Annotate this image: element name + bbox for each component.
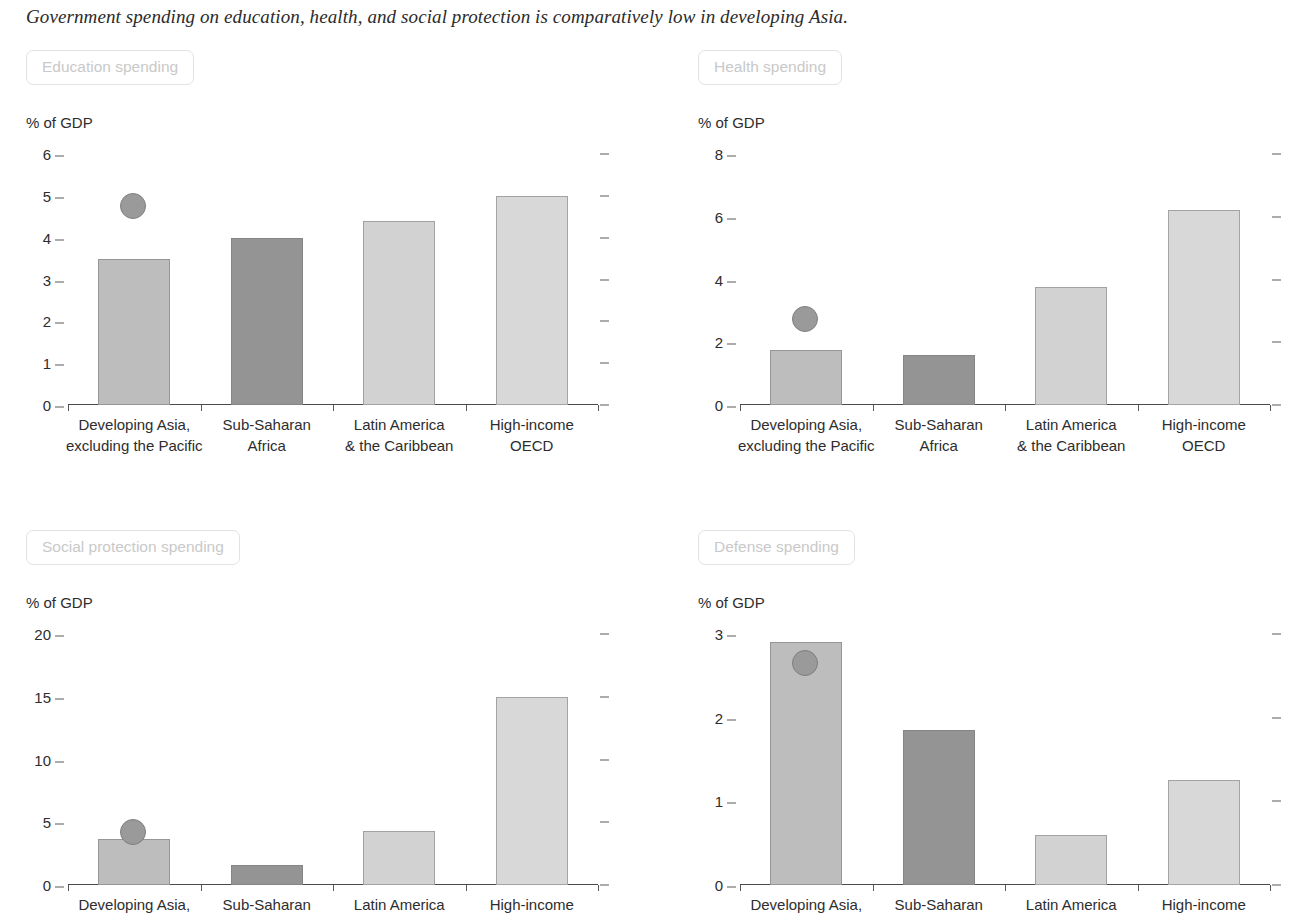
- y-axis-tick-label: 6: [26, 146, 64, 163]
- y-axis-tick-right: [600, 363, 609, 364]
- y-axis-tick-right: [1272, 279, 1281, 280]
- x-axis-label-line1: Latin America: [1017, 414, 1125, 435]
- x-axis-label-latin-america: Latin America: [1026, 894, 1117, 915]
- x-axis-tick: [740, 405, 741, 411]
- y-axis-tick-label: 5: [26, 187, 64, 204]
- y-axis-tick-label: 2: [698, 709, 736, 726]
- y-axis-tick-right: [1272, 154, 1281, 155]
- x-axis-label-line2: OECD: [1162, 435, 1246, 456]
- x-axis-tick: [1138, 885, 1139, 891]
- chart-panel-defense: Defense spending% of GDP0123Developing A…: [690, 524, 1302, 924]
- bar-high-income-oecd: [1168, 210, 1240, 405]
- bar-latin-america: [363, 221, 435, 405]
- y-axis-tick-label: 5: [26, 814, 64, 831]
- x-axis-label-sub-saharan-africa: Sub-SaharanAfrica: [895, 414, 983, 456]
- y-axis-tick-label: 1: [26, 355, 64, 372]
- y-axis-tick-label: 2: [698, 334, 736, 351]
- y-axis-tick-label: 4: [26, 229, 64, 246]
- x-axis-tick: [333, 405, 334, 411]
- bar-sub-saharan-africa: [903, 355, 975, 405]
- y-axis-unit-label: % of GDP: [26, 114, 93, 131]
- x-axis-label-line1: Developing Asia,: [750, 894, 862, 915]
- x-axis-tick: [68, 885, 69, 891]
- y-axis-tick-right: [600, 759, 609, 760]
- x-axis-tick: [333, 885, 334, 891]
- bar-sub-saharan-africa: [903, 730, 975, 885]
- x-axis-label-line1: Sub-Saharan: [895, 414, 983, 435]
- x-axis-label-line2: excluding the Pacific: [66, 435, 203, 456]
- y-axis-tick-label: 1: [698, 793, 736, 810]
- y-axis-unit-label: % of GDP: [698, 594, 765, 611]
- x-axis-label-sub-saharan-africa: Sub-Saharan: [223, 894, 311, 915]
- x-axis-tick: [466, 885, 467, 891]
- x-axis-label-line1: Developing Asia,: [738, 414, 875, 435]
- y-axis-tick-right: [1272, 634, 1281, 635]
- x-axis-label-line1: High-income: [1162, 414, 1246, 435]
- x-axis-label-line1: High-income: [490, 894, 574, 915]
- x-axis-tick: [201, 405, 202, 411]
- y-axis-tick-label: 20: [26, 626, 64, 643]
- bar-developing-asia: [98, 839, 170, 885]
- x-axis-tick: [598, 405, 599, 411]
- x-axis-label-sub-saharan-africa: Sub-Saharan: [895, 894, 983, 915]
- x-axis-label-high-income-oecd: High-incomeOECD: [1162, 414, 1246, 456]
- bar-latin-america: [363, 831, 435, 885]
- y-axis-tick-right: [600, 154, 609, 155]
- x-axis-label-line1: Developing Asia,: [66, 414, 203, 435]
- panel-pill-label[interactable]: Defense spending: [698, 530, 855, 565]
- x-axis-category-labels: Developing Asia,excluding the PacificSub…: [698, 414, 1274, 474]
- panel-pill-label[interactable]: Education spending: [26, 50, 194, 85]
- x-axis-label-line2: & the Caribbean: [1017, 435, 1125, 456]
- y-axis-tick-right: [1272, 216, 1281, 217]
- bar-high-income-oecd: [496, 196, 568, 405]
- bar-developing-asia: [98, 259, 170, 405]
- x-axis-tick: [873, 405, 874, 411]
- y-axis-tick-label: 3: [26, 271, 64, 288]
- x-axis-category-labels: Developing Asia,Sub-SaharanLatin America…: [26, 894, 602, 924]
- y-axis-tick-label: 0: [698, 877, 736, 894]
- x-axis-tick: [1270, 885, 1271, 891]
- y-axis-tick-label: 4: [698, 271, 736, 288]
- x-axis-label-line1: Developing Asia,: [78, 894, 190, 915]
- y-axis-tick-right: [600, 279, 609, 280]
- y-axis-unit-label: % of GDP: [698, 114, 765, 131]
- y-axis-tick-label: 0: [698, 397, 736, 414]
- y-axis-tick-right: [600, 885, 609, 886]
- chart-panel-education: Education spending% of GDP0123456Develop…: [18, 44, 658, 514]
- x-axis-tick: [1270, 405, 1271, 411]
- x-axis-label-line1: Latin America: [1026, 894, 1117, 915]
- y-axis-tick-right: [600, 822, 609, 823]
- plot-area: 0123456: [26, 142, 602, 414]
- x-axis-tick: [873, 885, 874, 891]
- y-axis-tick-label: 15: [26, 688, 64, 705]
- y-axis-tick-label: 6: [698, 208, 736, 225]
- x-axis-label-high-income-oecd: High-income: [1162, 894, 1246, 915]
- x-axis-tick: [598, 885, 599, 891]
- x-axis-tick: [466, 405, 467, 411]
- x-axis-label-latin-america: Latin America: [354, 894, 445, 915]
- x-axis-label-line1: Sub-Saharan: [223, 894, 311, 915]
- panel-pill-label[interactable]: Social protection spending: [26, 530, 240, 565]
- y-axis-tick-right: [1272, 342, 1281, 343]
- y-axis-tick-right: [1272, 885, 1281, 886]
- y-axis-tick-right: [600, 237, 609, 238]
- chart-panel-health: Health spending% of GDP02468Developing A…: [690, 44, 1302, 514]
- bar-high-income-oecd: [1168, 780, 1240, 885]
- x-axis-label-developing-asia: Developing Asia,excluding the Pacific: [66, 414, 203, 456]
- x-axis-tick: [1005, 885, 1006, 891]
- x-axis-label-latin-america: Latin America& the Caribbean: [345, 414, 453, 456]
- x-axis-tick: [1138, 405, 1139, 411]
- plot-area: 0123: [698, 622, 1274, 894]
- y-axis-tick-right: [1272, 717, 1281, 718]
- bar-developing-asia: [770, 350, 842, 405]
- x-axis-label-line2: Africa: [223, 435, 311, 456]
- x-axis-label-developing-asia: Developing Asia,: [78, 894, 190, 915]
- y-axis-tick-right: [600, 634, 609, 635]
- x-axis-label-line1: Sub-Saharan: [895, 894, 983, 915]
- x-axis-label-line2: excluding the Pacific: [738, 435, 875, 456]
- y-axis-tick-right: [600, 195, 609, 196]
- x-axis-label-line2: & the Caribbean: [345, 435, 453, 456]
- chart-panel-social-protection: Social protection spending% of GDP051015…: [18, 524, 658, 924]
- panel-pill-label[interactable]: Health spending: [698, 50, 842, 85]
- x-axis-label-line2: OECD: [490, 435, 574, 456]
